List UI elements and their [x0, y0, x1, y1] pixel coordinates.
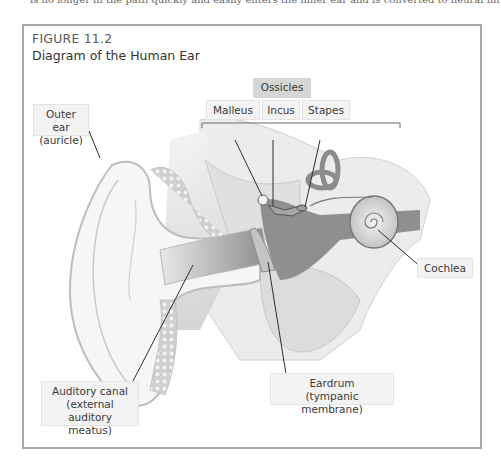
label-incus: Incus	[262, 100, 300, 120]
label-auditory-canal-line3: meatus)	[46, 424, 134, 437]
label-eardrum: Eardrum (tympanic membrane)	[270, 373, 394, 405]
label-auditory-canal-line2: (external auditory	[46, 398, 134, 424]
label-stapes: Stapes	[302, 100, 350, 120]
outer-ear-leader	[89, 131, 100, 158]
label-eardrum-line2: (tympanic membrane)	[275, 390, 389, 416]
label-outer-ear-line1: Outer ear	[38, 108, 84, 134]
label-outer-ear-line2: (auricle)	[38, 134, 84, 147]
label-ossicles: Ossicles	[253, 78, 311, 98]
label-cochlea: Cochlea	[417, 258, 473, 278]
label-auditory-canal-line1: Auditory canal	[46, 385, 134, 398]
label-malleus: Malleus	[206, 100, 260, 120]
label-auditory-canal: Auditory canal (external auditory meatus…	[41, 381, 139, 426]
label-eardrum-line1: Eardrum	[275, 377, 389, 390]
label-outer-ear: Outer ear (auricle)	[33, 104, 89, 136]
